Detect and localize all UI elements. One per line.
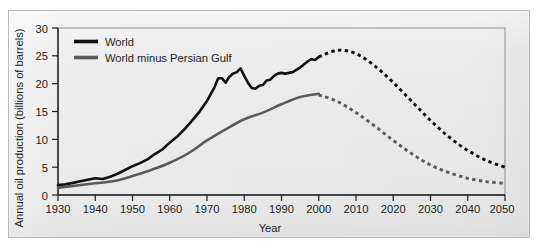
x-tick-1980: 1980 [232, 203, 257, 215]
x-tick-1990: 1990 [269, 203, 294, 215]
x-tick-2000: 2000 [306, 203, 331, 215]
legend-label-world: World [105, 36, 134, 48]
x-tick-1930: 1930 [46, 203, 71, 215]
series-world-minus-persian-gulf-historical [58, 94, 319, 188]
x-axis-ticks [58, 195, 505, 201]
x-axis-title: Year [259, 222, 282, 234]
x-tick-1940: 1940 [83, 203, 108, 215]
chart-legend: World World minus Persian Gulf [74, 36, 233, 64]
y-axis-tick-labels: 30 25 20 15 10 5 0 [36, 23, 48, 202]
x-axis-tick-labels: 1930 1940 1950 1960 1970 1980 1990 2000 … [46, 203, 515, 215]
y-axis-ticks [52, 28, 58, 195]
figure-container: Annual oil production (billions of barre… [0, 0, 542, 248]
x-tick-2050: 2050 [490, 203, 515, 215]
y-tick-25: 25 [36, 50, 48, 62]
y-tick-20: 20 [36, 78, 48, 90]
y-tick-15: 15 [36, 106, 48, 118]
series-world-projected [319, 50, 505, 167]
y-tick-30: 30 [36, 23, 48, 35]
legend-label-world-minus-persian-gulf: World minus Persian Gulf [105, 52, 233, 64]
series-world-historical [58, 57, 319, 185]
y-tick-0: 0 [42, 190, 48, 202]
x-tick-2010: 2010 [344, 203, 369, 215]
x-tick-1960: 1960 [157, 203, 182, 215]
x-tick-1970: 1970 [195, 203, 220, 215]
x-tick-2020: 2020 [381, 203, 406, 215]
y-tick-5: 5 [42, 162, 48, 174]
series-world-minus-persian-gulf-projected [319, 95, 505, 184]
data-series-layer [58, 50, 505, 188]
oil-production-chart: Annual oil production (billions of barre… [8, 10, 530, 238]
x-tick-2030: 2030 [418, 203, 443, 215]
y-axis-title: Annual oil production (billions of barre… [13, 28, 25, 227]
x-tick-1950: 1950 [120, 203, 145, 215]
y-tick-10: 10 [36, 134, 48, 146]
x-tick-2040: 2040 [455, 203, 480, 215]
